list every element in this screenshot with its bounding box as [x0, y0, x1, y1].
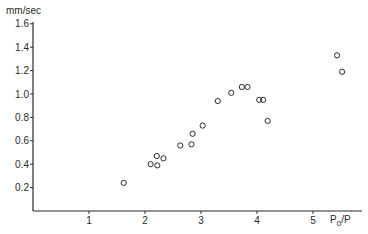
data-point-marker [121, 180, 126, 185]
x-axis-title-tail: /P [341, 214, 351, 225]
x-tick-label: 4 [254, 215, 260, 226]
y-tick-label: 0.4 [15, 159, 29, 170]
data-point-marker [334, 53, 339, 58]
data-point-marker [265, 118, 270, 123]
data-point-marker [148, 162, 153, 167]
data-point-marker [200, 123, 205, 128]
x-ticks: 12345 [86, 211, 316, 226]
x-tick-label: 1 [86, 215, 92, 226]
x-tick-label: 3 [198, 215, 204, 226]
y-tick-label: 0.6 [15, 135, 29, 146]
data-point-marker [155, 163, 160, 168]
y-tick-label: 1.0 [15, 89, 29, 100]
x-tick-label: 5 [310, 215, 316, 226]
data-point-marker [189, 142, 194, 147]
y-tick-label: 1.4 [15, 42, 29, 53]
data-point-marker [154, 153, 159, 158]
y-tick-label: 0.8 [15, 112, 29, 123]
data-point-marker [239, 84, 244, 89]
data-point-marker [245, 84, 250, 89]
y-ticks: 0.20.40.60.81.01.21.41.6 [15, 18, 33, 193]
data-point-marker [229, 90, 234, 95]
y-tick-label: 0.2 [15, 182, 29, 193]
data-point-marker [161, 156, 166, 161]
scatter-chart: mm/sec 0.20.40.60.81.01.21.41.6 12345 P0… [0, 0, 368, 234]
x-axis-title: P0/P [330, 214, 351, 228]
data-points [121, 53, 345, 186]
y-tick-label: 1.2 [15, 65, 29, 76]
data-point-marker [190, 131, 195, 136]
data-point-marker [215, 98, 220, 103]
data-point-marker [340, 69, 345, 74]
data-point-marker [178, 143, 183, 148]
y-axis-title: mm/sec [6, 5, 41, 16]
y-tick-label: 1.6 [15, 18, 29, 29]
x-tick-label: 2 [142, 215, 148, 226]
